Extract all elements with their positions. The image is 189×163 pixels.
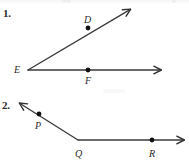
- figure-problem-2: [20, 103, 184, 142]
- point-label-E: E: [14, 65, 20, 75]
- worksheet-page: 1. D E F 2. P Q R: [0, 0, 189, 163]
- point-label-Q: Q: [75, 149, 82, 159]
- point-label-F: F: [85, 76, 91, 86]
- figure-problem-1: [28, 9, 161, 72]
- ray-ED: [28, 9, 130, 70]
- geometry-figures: [0, 0, 189, 163]
- problem-number-2: 2.: [2, 100, 10, 111]
- point-R-dot: [150, 138, 155, 143]
- point-label-D: D: [84, 15, 91, 25]
- point-label-R: R: [149, 149, 155, 159]
- point-D-dot: [86, 26, 91, 31]
- ray-QP: [20, 103, 78, 140]
- point-label-P: P: [35, 121, 41, 131]
- problem-number-1: 1.: [3, 8, 11, 19]
- point-P-dot: [37, 112, 42, 117]
- point-F-dot: [86, 68, 91, 73]
